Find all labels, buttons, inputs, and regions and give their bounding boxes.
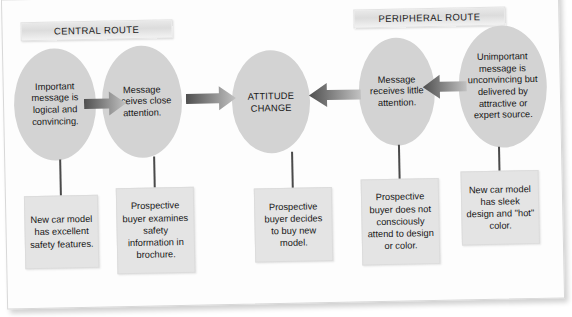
peripheral-route-label: PERIPHERAL ROUTE xyxy=(378,11,480,24)
stem-central-source xyxy=(59,159,62,196)
box-example-central-attention-label: Prospective buyer examines safety inform… xyxy=(121,199,190,261)
stem-peripheral-source xyxy=(498,147,501,172)
node-central-source-label: Important message is logical and convinc… xyxy=(20,81,91,129)
peripheral-route-header: PERIPHERAL ROUTE xyxy=(353,7,505,29)
scanned-page-sheet: CENTRAL ROUTE PERIPHERAL ROUTE Important… xyxy=(1,0,565,310)
arrow-right-icon-central-1 xyxy=(84,90,127,117)
box-example-peripheral-source-label: New car model has sleek design and "hot"… xyxy=(466,183,535,233)
stem-outcome xyxy=(291,152,294,189)
diagram-content: CENTRAL ROUTE PERIPHERAL ROUTE Important… xyxy=(2,0,564,309)
figure-canvas: CENTRAL ROUTE PERIPHERAL ROUTE Important… xyxy=(0,0,572,317)
node-peripheral-attention-label: Message receives little attention. xyxy=(365,74,430,110)
box-example-central-source-label: New car model has excellent safety featu… xyxy=(29,213,94,251)
box-example-outcome-label: Prospective buyer decides to buy new mod… xyxy=(259,200,328,250)
node-peripheral-source: Unimportant message is unconvincing but … xyxy=(458,25,548,149)
arrow-right-icon-central-2 xyxy=(186,85,237,112)
box-example-peripheral-attention: Prospective buyer does not consciously a… xyxy=(361,178,441,266)
box-example-central-attention: Prospective buyer examines safety inform… xyxy=(116,187,196,275)
arrow-left-icon-peripheral-2 xyxy=(423,73,468,100)
box-example-peripheral-source: New car model has sleek design and "hot"… xyxy=(460,170,539,246)
box-example-outcome: Prospective buyer decides to buy new mod… xyxy=(254,187,333,263)
arrow-left-icon-peripheral-1 xyxy=(309,81,362,108)
central-route-header: CENTRAL ROUTE xyxy=(20,19,172,41)
box-example-central-source: New car model has excellent safety featu… xyxy=(24,195,99,269)
node-peripheral-source-label: Unimportant message is unconvincing but … xyxy=(464,51,541,122)
central-route-label: CENTRAL ROUTE xyxy=(54,24,139,37)
node-attitude-change: ATTITUDE CHANGE xyxy=(231,49,311,154)
box-example-peripheral-attention-label: Prospective buyer does not consciously a… xyxy=(366,190,435,252)
stem-central-attention xyxy=(153,157,156,189)
node-attitude-change-label: ATTITUDE CHANGE xyxy=(238,89,304,114)
stem-peripheral-attention xyxy=(398,145,401,180)
